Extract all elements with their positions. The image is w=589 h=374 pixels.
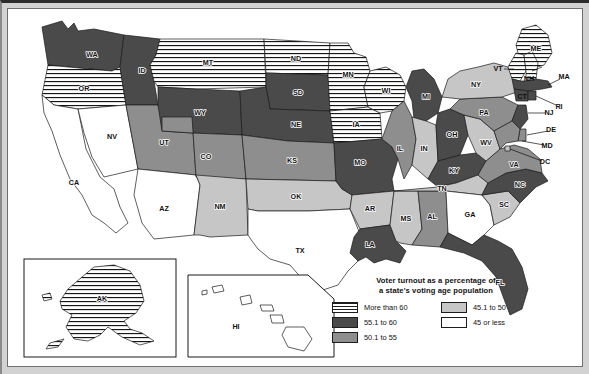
- state-label-WV: WV: [480, 138, 492, 147]
- hawaii-inset[interactable]: HI: [188, 275, 334, 357]
- state-label-DE: DE: [546, 125, 556, 134]
- state-label-ND: ND: [291, 54, 301, 63]
- state-label-NH: NH: [524, 74, 534, 83]
- map-figure: WA OR CA NV ID MT WY UT AZ NM CO ND SD N…: [0, 0, 589, 374]
- state-label-NY: NY: [471, 80, 481, 89]
- state-MO[interactable]: [334, 139, 398, 195]
- state-label-TX: TX: [295, 246, 304, 255]
- state-label-VT: VT: [493, 64, 503, 73]
- legend-title-line2: a state's voting age population: [332, 286, 540, 296]
- state-label-OR: OR: [79, 84, 91, 93]
- state-label-MI: MI: [422, 92, 430, 101]
- state-label-NE: NE: [291, 120, 301, 129]
- state-label-LA: LA: [365, 240, 375, 249]
- state-label-MS: MS: [401, 214, 412, 223]
- state-label-CT: CT: [517, 92, 527, 101]
- legend-item-more-than-60[interactable]: More than 60: [332, 302, 431, 313]
- legend-item-55-1-to-60[interactable]: 55.1 to 60: [332, 317, 431, 328]
- state-label-RI: RI: [555, 102, 562, 111]
- state-label-MD: MD: [541, 141, 552, 150]
- legend-swatch-45-1-to-50: [441, 302, 467, 313]
- legend-swatch-55-1-to-60: [332, 317, 358, 328]
- state-label-OH: OH: [447, 130, 458, 139]
- state-label-PA: PA: [479, 108, 488, 117]
- state-label-NJ: NJ: [544, 108, 553, 117]
- state-label-IA: IA: [352, 120, 359, 129]
- state-DC[interactable]: [505, 146, 510, 151]
- state-label-CA: CA: [69, 178, 79, 187]
- state-label-WA: WA: [86, 50, 98, 59]
- legend-item-45-1-to-50[interactable]: 45.1 to 50: [441, 302, 540, 313]
- state-label-NM: NM: [214, 202, 225, 211]
- state-label-KY: KY: [449, 166, 459, 175]
- state-label-DC: DC: [540, 157, 550, 166]
- state-label-TN: TN: [437, 184, 447, 193]
- state-label-ME: ME: [531, 44, 542, 53]
- legend-title-line1: Voter turnout as a percentage of: [332, 276, 540, 286]
- state-label-MA: MA: [558, 72, 569, 81]
- legend-swatch-45-or-less: [441, 317, 467, 328]
- legend-label-50-1-to-55: 50.1 to 55: [364, 333, 397, 342]
- state-label-VA: VA: [509, 160, 518, 169]
- legend-swatch-50-1-to-55: [332, 332, 358, 343]
- state-label-OK: OK: [291, 192, 303, 201]
- state-label-WI: WI: [382, 86, 391, 95]
- state-WA[interactable]: [42, 21, 124, 71]
- state-label-KS: KS: [287, 156, 297, 165]
- state-label-AZ: AZ: [159, 204, 169, 213]
- legend-label-45-or-less: 45 or less: [473, 318, 505, 327]
- legend-title: Voter turnout as a percentage of a state…: [332, 276, 540, 297]
- map-legend: Voter turnout as a percentage of a state…: [332, 276, 540, 350]
- state-label-MT: MT: [203, 58, 214, 67]
- state-label-NC: NC: [515, 180, 525, 189]
- state-label-SD: SD: [293, 88, 303, 97]
- state-label-MO: MO: [354, 158, 366, 167]
- inset-label-AK: AK: [97, 294, 108, 303]
- state-label-UT: UT: [159, 138, 169, 147]
- state-RI[interactable]: [528, 91, 536, 100]
- state-label-GA: GA: [465, 210, 476, 219]
- state-label-AR: AR: [365, 204, 376, 213]
- state-label-AL: AL: [427, 212, 437, 221]
- legend-entries: More than 60 45.1 to 50 55.1 to 60 45 or…: [332, 302, 540, 343]
- leader-DE: [527, 131, 548, 135]
- alaska-inset[interactable]: AK: [24, 259, 176, 357]
- state-label-IL: IL: [397, 144, 404, 153]
- legend-swatch-more-than-60: [332, 302, 358, 313]
- legend-item-50-1-to-55[interactable]: 50.1 to 55: [332, 332, 431, 343]
- legend-label-55-1-to-60: 55.1 to 60: [364, 318, 397, 327]
- state-label-IN: IN: [420, 144, 427, 153]
- inset-label-HI: HI: [232, 322, 239, 331]
- state-label-NV: NV: [107, 132, 117, 141]
- state-label-CO: CO: [201, 152, 212, 161]
- legend-label-45-1-to-50: 45.1 to 50: [473, 303, 506, 312]
- state-label-SC: SC: [499, 200, 509, 209]
- leader-RI: [536, 96, 556, 105]
- legend-label-more-than-60: More than 60: [364, 303, 408, 312]
- legend-item-45-or-less[interactable]: 45 or less: [441, 317, 540, 328]
- state-label-WY: WY: [194, 108, 206, 117]
- state-label-ID: ID: [138, 66, 145, 75]
- state-label-MN: MN: [342, 70, 353, 79]
